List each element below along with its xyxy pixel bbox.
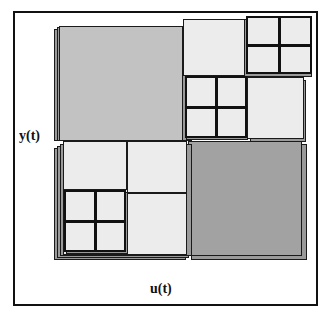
y-axis-label: y(t) <box>19 129 40 143</box>
block-bottom-left-upper <box>63 141 127 190</box>
block-bottom-left-upper-right <box>127 141 187 193</box>
figure-canvas: y(t) u(t) <box>0 0 332 316</box>
quad-cell <box>218 109 246 137</box>
quad-cell <box>281 47 311 73</box>
quad-top-right <box>246 16 312 74</box>
block-top-left-large <box>59 26 183 141</box>
block-bottom-right-large <box>188 141 302 256</box>
quad-cell <box>248 47 278 73</box>
block-top-middle <box>183 19 246 76</box>
quad-cell <box>97 223 125 251</box>
quad-cell <box>187 109 215 137</box>
block-bottom-left-lower-right <box>127 193 187 255</box>
quad-cell <box>218 78 246 106</box>
quad-bottom-left <box>64 190 126 252</box>
x-axis-label: u(t) <box>150 282 172 296</box>
quad-middle <box>185 76 247 138</box>
quad-cell <box>97 192 125 220</box>
block-mid-right-large <box>247 77 304 139</box>
quad-cell <box>187 78 215 106</box>
quad-cell <box>66 223 94 251</box>
quad-cell <box>66 192 94 220</box>
quad-cell <box>281 18 311 44</box>
quad-cell <box>248 18 278 44</box>
